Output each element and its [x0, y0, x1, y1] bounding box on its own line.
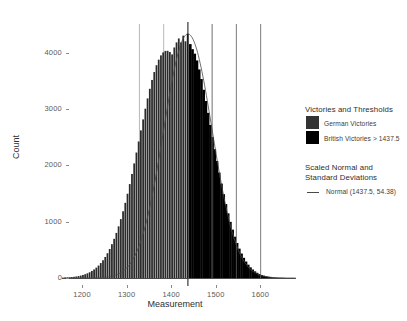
x-tick-mark [216, 285, 217, 288]
legend-swatch-british [306, 131, 319, 144]
histogram-bar [149, 89, 151, 278]
histogram-bar [138, 141, 140, 278]
histogram-bar [107, 253, 109, 278]
x-tick-mark [260, 285, 261, 288]
x-tick-label: 1600 [240, 290, 280, 299]
histogram-bar [104, 257, 106, 278]
histogram-bar [136, 153, 138, 278]
y-tick-label: 3000 [22, 104, 62, 113]
histogram-bar [124, 203, 126, 278]
histogram-bar [185, 41, 187, 278]
y-tick-label: 0 [22, 273, 62, 282]
plot-area: Measurement Count 01000200030004000 1200… [0, 0, 300, 321]
y-tick-mark [66, 222, 69, 223]
x-tick-label: 1500 [196, 290, 236, 299]
y-tick-mark [66, 53, 69, 54]
legend: Victories and Thresholds German Victorie… [300, 0, 407, 321]
legend-group-title-normal-line1: Scaled Normal and [305, 163, 373, 173]
histogram-bar [198, 69, 201, 278]
histogram-bar [225, 204, 228, 278]
histogram-bar [142, 119, 144, 278]
x-tick-label: 1200 [62, 290, 102, 299]
histogram-bar [207, 113, 210, 278]
histogram-bar [173, 47, 175, 278]
histogram-bar [133, 163, 135, 278]
histogram-bar [160, 55, 162, 278]
x-tick-label: 1400 [151, 290, 191, 299]
histogram-bar [113, 239, 115, 278]
histogram-bar [220, 184, 223, 278]
histogram-bar [127, 194, 129, 278]
histogram-bar [216, 161, 219, 278]
histogram-bar [111, 244, 113, 278]
histogram-bar [182, 36, 184, 278]
histogram-bar [144, 109, 146, 278]
histogram-bar [91, 271, 93, 278]
x-axis-line [62, 278, 296, 279]
histogram-figure: Measurement Count 01000200030004000 1200… [0, 0, 407, 321]
x-axis-title: Measurement [110, 299, 240, 309]
legend-label-normal-curve: Normal (1437.5, 54.38) [326, 188, 396, 195]
histogram-bar [109, 249, 111, 278]
y-tick-label: 4000 [22, 48, 62, 57]
histogram-bar [158, 60, 160, 278]
legend-group-title-normal-line2: Standard Deviations [305, 173, 377, 183]
histogram-bar [178, 38, 180, 278]
y-tick-mark [66, 278, 69, 279]
histogram-bar [98, 266, 100, 278]
histogram-bar [115, 233, 117, 278]
histogram-bar [169, 52, 171, 278]
x-tick-mark [171, 285, 172, 288]
histogram-bar [205, 101, 208, 278]
y-tick-label: 2000 [22, 160, 62, 169]
histogram-bar [193, 54, 196, 278]
x-tick-mark [82, 285, 83, 288]
histogram-bar [202, 90, 205, 278]
histogram-bar [180, 42, 182, 278]
legend-marker-normal-curve [307, 192, 319, 193]
y-tick-mark [66, 165, 69, 166]
histogram-bar [196, 60, 199, 278]
histogram-bar [147, 98, 149, 278]
histogram-bar [189, 44, 192, 278]
histogram-bar [165, 51, 167, 278]
histogram-bar [191, 49, 194, 278]
legend-group-title-victories: Victories and Thresholds [305, 105, 393, 115]
histogram-bar [102, 260, 104, 278]
legend-label-british: British Victories > 1437.5 [324, 135, 400, 142]
histogram-bar [93, 269, 95, 278]
histogram-bar [100, 263, 102, 278]
x-tick-mark [127, 285, 128, 288]
histogram-bar [209, 125, 212, 278]
histogram-bar [227, 213, 230, 278]
histogram-bar [214, 149, 217, 278]
histogram-bar [151, 80, 153, 278]
histogram-bar [222, 194, 225, 278]
histogram-bar [218, 173, 221, 278]
legend-swatch-german [306, 116, 319, 129]
histogram-bar [162, 52, 164, 278]
y-axis-title: Count [11, 117, 21, 177]
histogram-bar [118, 226, 120, 278]
histogram-bar [211, 137, 214, 278]
histogram-bar [95, 268, 97, 278]
histogram-bar [176, 42, 178, 278]
y-tick-mark [66, 109, 69, 110]
legend-label-german: German Victories [324, 120, 376, 127]
histogram-bar [171, 54, 173, 278]
histogram-bar [120, 219, 122, 278]
histogram-bar [122, 211, 124, 278]
histogram-bar [200, 79, 203, 278]
x-tick-label: 1300 [107, 290, 147, 299]
y-tick-label: 1000 [22, 217, 62, 226]
histogram-bar [167, 51, 169, 278]
histogram-bar [153, 72, 155, 278]
histogram-bar [140, 130, 142, 278]
